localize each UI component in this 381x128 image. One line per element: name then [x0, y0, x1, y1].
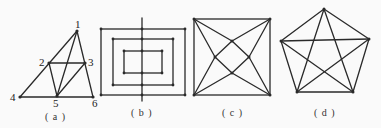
caption-d: ( d ) — [314, 107, 336, 119]
vertex-label-1: 1 — [75, 18, 81, 30]
caption-b: ( b ) — [131, 107, 153, 119]
vertex-label-5: 5 — [53, 97, 59, 109]
graph-figures: 1 2 3 4 5 6 ( a ) ( b ) — [0, 0, 381, 128]
figure-c: ( c ) — [193, 18, 272, 120]
figure-b: ( b ) — [100, 18, 187, 119]
vertex-label-3: 3 — [88, 56, 94, 68]
caption-c: ( c ) — [222, 107, 243, 119]
figure-a: 1 2 3 4 5 6 ( a ) — [10, 18, 98, 123]
vertex-label-2: 2 — [39, 56, 45, 68]
figure-d: ( d ) — [280, 8, 371, 120]
vertex-label-6: 6 — [92, 97, 98, 109]
caption-a: ( a ) — [45, 111, 66, 123]
vertex-label-4: 4 — [10, 91, 16, 103]
